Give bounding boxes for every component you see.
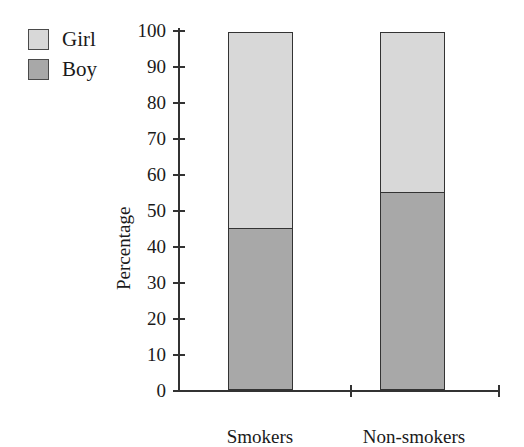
x-axis-label-smokers: Smokers (200, 426, 320, 447)
legend-item-boy: Boy (28, 54, 148, 84)
x-tick-end (498, 385, 500, 397)
bar-smokers (228, 32, 293, 391)
bar-segment-smokers-girl (228, 32, 293, 230)
y-axis-title: Percentage (113, 90, 135, 290)
girl-swatch-icon (28, 29, 49, 50)
y-tick-label-90: 90 (147, 57, 166, 76)
legend-label-boy: Boy (62, 59, 97, 80)
x-tick-divider (350, 385, 352, 397)
y-tick-label-70: 70 (147, 129, 166, 148)
x-axis-line (178, 390, 500, 392)
legend-label-girl: Girl (62, 29, 96, 50)
y-tick-label-20: 20 (147, 309, 166, 328)
legend-item-girl: Girl (28, 24, 148, 54)
plot-area: 100 90 80 70 60 50 40 30 (178, 30, 500, 390)
x-axis-label-non-smokers: Non-smokers (330, 426, 498, 447)
y-tick-label-60: 60 (147, 165, 166, 184)
bar-segment-non-smokers-boy (380, 192, 445, 390)
y-tick-label-50: 50 (147, 201, 166, 220)
y-tick-label-30: 30 (147, 273, 166, 292)
bar-non-smokers (380, 32, 445, 391)
y-tick-label-40: 40 (147, 237, 166, 256)
y-tick-label-0: 0 (157, 381, 167, 400)
y-tick-label-100: 100 (138, 21, 167, 40)
y-tick-label-80: 80 (147, 93, 166, 112)
bar-segment-non-smokers-girl (380, 32, 445, 194)
chart-legend: Girl Boy (28, 24, 148, 84)
boy-swatch-icon (28, 59, 49, 80)
bar-segment-smokers-boy (228, 228, 293, 390)
y-tick-label-10: 10 (147, 345, 166, 364)
